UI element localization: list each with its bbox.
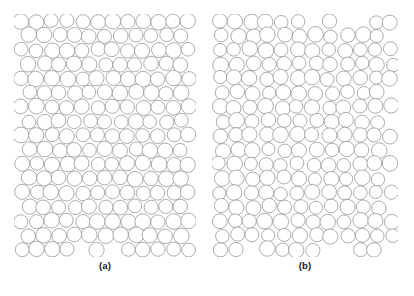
packing-circle bbox=[338, 112, 353, 127]
packing-circle bbox=[20, 57, 36, 73]
packing-circle bbox=[309, 201, 322, 214]
packing-circle bbox=[309, 56, 323, 70]
packing-circle bbox=[144, 56, 159, 71]
packing-circle bbox=[127, 58, 141, 72]
packing-circle bbox=[212, 156, 225, 170]
packing-circle bbox=[91, 42, 105, 56]
packing-circle bbox=[159, 171, 175, 187]
packing-circle bbox=[43, 184, 59, 200]
packing-circle bbox=[135, 242, 150, 257]
packing-circle bbox=[173, 171, 189, 187]
packing-circle bbox=[260, 72, 274, 86]
packing-circle bbox=[367, 128, 381, 142]
packing-circle bbox=[383, 42, 397, 56]
packing-circle bbox=[36, 200, 51, 215]
packing-circle bbox=[144, 200, 158, 214]
packing-circle bbox=[105, 214, 121, 230]
packing-circle bbox=[354, 143, 369, 158]
packing-circle bbox=[91, 15, 106, 30]
packing-circle bbox=[367, 243, 382, 257]
packing-circle bbox=[22, 199, 37, 214]
packing-circle bbox=[59, 186, 74, 201]
packing-circle bbox=[367, 156, 382, 171]
packing-circle bbox=[29, 98, 45, 114]
packing-circle bbox=[355, 170, 371, 186]
panel-a-svg bbox=[14, 14, 196, 257]
packing-circle bbox=[353, 213, 368, 228]
packing-circle bbox=[231, 227, 245, 241]
packing-circle bbox=[44, 14, 58, 27]
packing-circle bbox=[113, 57, 128, 72]
packing-circle bbox=[227, 156, 243, 172]
packing-circle bbox=[382, 71, 398, 87]
packing-circle bbox=[112, 85, 128, 101]
packing-circle bbox=[28, 71, 44, 87]
packing-circle bbox=[370, 16, 383, 29]
packing-circle bbox=[113, 170, 128, 185]
packing-circle bbox=[160, 115, 174, 129]
packing-circle bbox=[337, 215, 351, 229]
packing-circle bbox=[368, 99, 383, 114]
packing-circle bbox=[174, 113, 188, 127]
packing-circle bbox=[76, 128, 90, 142]
packing-circle bbox=[67, 28, 82, 43]
packing-circle bbox=[277, 200, 291, 214]
packing-circle bbox=[384, 185, 398, 199]
packing-circle bbox=[91, 186, 105, 200]
packing-circle bbox=[151, 100, 165, 114]
packing-circle bbox=[242, 41, 257, 56]
packing-circle bbox=[245, 86, 260, 101]
packing-circle bbox=[52, 228, 67, 243]
packing-circle bbox=[323, 57, 338, 72]
packing-circle bbox=[260, 170, 275, 185]
figure-container: (a) (b) bbox=[0, 0, 414, 296]
packing-circle bbox=[276, 243, 289, 256]
packing-circle bbox=[104, 42, 119, 57]
packing-circle bbox=[243, 100, 257, 114]
packing-circle bbox=[230, 84, 245, 99]
packing-circle bbox=[294, 200, 308, 214]
packing-circle bbox=[60, 71, 76, 87]
packing-circle bbox=[82, 171, 97, 186]
packing-circle bbox=[159, 199, 173, 213]
packing-circle bbox=[30, 156, 44, 170]
packing-circle bbox=[45, 241, 60, 256]
packing-circle bbox=[152, 42, 167, 57]
packing-circle bbox=[357, 87, 370, 100]
packing-circle bbox=[370, 29, 383, 42]
packing-circle bbox=[262, 143, 275, 156]
packing-circle bbox=[81, 29, 96, 44]
packing-circle bbox=[213, 187, 226, 200]
packing-circle bbox=[214, 171, 230, 187]
packing-circle bbox=[129, 142, 143, 156]
packing-circle bbox=[231, 142, 246, 157]
packing-circle bbox=[60, 242, 74, 256]
packing-circle bbox=[242, 70, 257, 85]
packing-circle bbox=[353, 186, 367, 200]
packing-circle bbox=[369, 57, 384, 72]
packing-circle bbox=[290, 186, 304, 200]
packing-circle bbox=[262, 229, 275, 242]
packing-circle bbox=[174, 29, 188, 43]
packing-circle bbox=[166, 214, 182, 230]
packing-circle bbox=[245, 228, 259, 242]
packing-circle bbox=[216, 230, 230, 244]
packing-circle bbox=[212, 14, 227, 28]
packing-circle bbox=[258, 98, 274, 114]
packing-circle bbox=[60, 156, 76, 172]
packing-circle bbox=[105, 157, 119, 171]
packing-circle bbox=[173, 199, 188, 214]
packing-circle bbox=[128, 114, 144, 130]
packing-circle bbox=[36, 228, 52, 244]
packing-circle bbox=[160, 28, 174, 42]
packing-circle bbox=[262, 57, 276, 71]
packing-circle bbox=[67, 227, 82, 242]
packing-circle bbox=[37, 171, 52, 186]
packing-circle bbox=[288, 242, 303, 257]
packing-circle bbox=[121, 44, 135, 58]
packing-circle bbox=[97, 141, 112, 156]
packing-circle bbox=[273, 69, 288, 84]
packing-circle bbox=[81, 199, 96, 214]
packing-circle bbox=[105, 14, 121, 29]
packing-circle bbox=[291, 70, 307, 86]
